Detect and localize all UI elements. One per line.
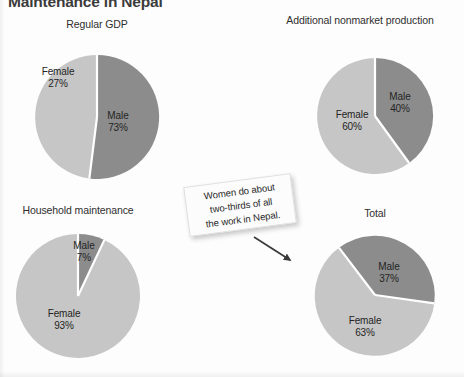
pie-chart-additional-nonmarket-production: Male 40% Female 60%: [317, 58, 433, 174]
panel-title-regular-gdp: Regular GDP: [66, 18, 127, 30]
slice-name: Female: [349, 315, 382, 326]
callout-arrow-icon: [240, 225, 310, 275]
slice-percent: 40%: [389, 103, 410, 115]
slice-percent: 73%: [107, 122, 128, 134]
slice-label-male-total: Male 37%: [378, 261, 399, 285]
slice-name: Female: [48, 308, 81, 319]
slice-percent: 7%: [73, 252, 94, 264]
slice-percent: 93%: [48, 320, 81, 332]
panel-title-total: Total: [364, 207, 386, 219]
slice-label-female-household-maintenance: Female 93%: [48, 308, 81, 332]
panel-title-additional-nonmarket-production: Additional nonmarket production: [286, 14, 434, 26]
page-edge-shadow-bottom: [0, 371, 464, 377]
slice-name: Female: [42, 66, 75, 77]
slice-label-female-additional-nonmarket-production: Female 60%: [336, 109, 369, 133]
slice-name: Female: [336, 109, 369, 120]
figure-maintenance-in-nepal: Maintenance in Nepal Regular GDP Female …: [0, 0, 464, 377]
slice-name: Male: [389, 91, 410, 102]
pie-chart-total: Male 37% Female 63%: [315, 235, 435, 355]
slice-name: Male: [73, 240, 94, 251]
slice-label-male-regular-gdp: Male 73%: [107, 110, 128, 134]
slice-percent: 37%: [378, 273, 399, 285]
slice-percent: 60%: [336, 121, 369, 133]
slice-label-female-total: Female 63%: [349, 315, 382, 339]
panel-title-household-maintenance: Household maintenance: [22, 204, 133, 216]
figure-title: Maintenance in Nepal: [8, 0, 162, 11]
pie-chart-regular-gdp: Female 27% Male 73%: [35, 55, 159, 179]
page-edge-shadow-left: [0, 0, 5, 377]
slice-percent: 27%: [42, 78, 75, 90]
pie-chart-household-maintenance: Male 7% Female 93%: [16, 234, 140, 358]
slice-percent: 63%: [349, 327, 382, 339]
slice-label-male-additional-nonmarket-production: Male 40%: [389, 91, 410, 115]
slice-label-male-household-maintenance: Male 7%: [73, 240, 94, 264]
slice-label-female-regular-gdp: Female 27%: [42, 66, 75, 90]
slice-name: Male: [107, 110, 128, 121]
slice-name: Male: [378, 261, 399, 272]
